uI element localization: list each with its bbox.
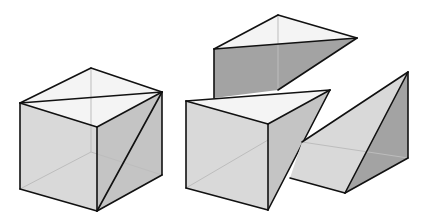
figure-canvas: Complete cube with diagonal cut linesUpp… bbox=[0, 0, 425, 223]
cube-dissection-diagram: Complete cube with diagonal cut linesUpp… bbox=[0, 0, 425, 223]
